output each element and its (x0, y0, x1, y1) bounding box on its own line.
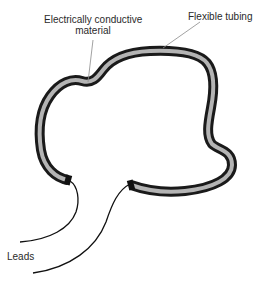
flexible-tube-fill (40, 51, 232, 192)
lead-wire-left (20, 181, 78, 242)
label-electrically-conductive-material: Electrically conductive material (44, 14, 142, 36)
label-conductive-line2: material (44, 25, 142, 36)
label-leads: Leads (7, 251, 34, 262)
leader-line-tubing (163, 22, 200, 48)
flexible-tube-outline (40, 51, 232, 192)
label-flexible-tubing: Flexible tubing (188, 11, 252, 22)
diagram-canvas: Electrically conductive material Flexibl… (0, 0, 259, 282)
tube-diagram (0, 0, 259, 282)
label-conductive-line1: Electrically conductive (44, 14, 142, 25)
lead-wire-right (33, 184, 130, 273)
